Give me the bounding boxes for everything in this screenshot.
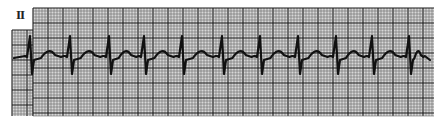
lead-label: II bbox=[16, 7, 24, 23]
ecg-strip bbox=[0, 0, 445, 125]
